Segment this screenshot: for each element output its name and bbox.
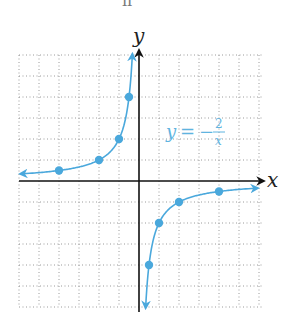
x-axis-label: x <box>267 168 278 192</box>
equation-y: y <box>165 121 177 142</box>
equation-minus: − <box>199 121 214 142</box>
curve-right-branch <box>146 188 258 308</box>
data-point <box>95 156 103 164</box>
equation-denominator: x <box>215 134 222 148</box>
data-point <box>175 198 183 206</box>
curve-left-branch <box>20 54 132 174</box>
function-graph: x y y = − 2 x <box>0 0 289 321</box>
equation-label: y = − 2 x <box>165 117 225 148</box>
equation-numerator: 2 <box>215 117 223 131</box>
data-point <box>115 135 123 143</box>
data-point <box>125 93 133 101</box>
equation-equals: = <box>180 121 195 142</box>
data-point <box>145 261 153 269</box>
data-point <box>55 166 63 174</box>
y-axis-label: y <box>132 24 145 48</box>
data-point <box>215 187 223 195</box>
data-point <box>155 219 163 227</box>
